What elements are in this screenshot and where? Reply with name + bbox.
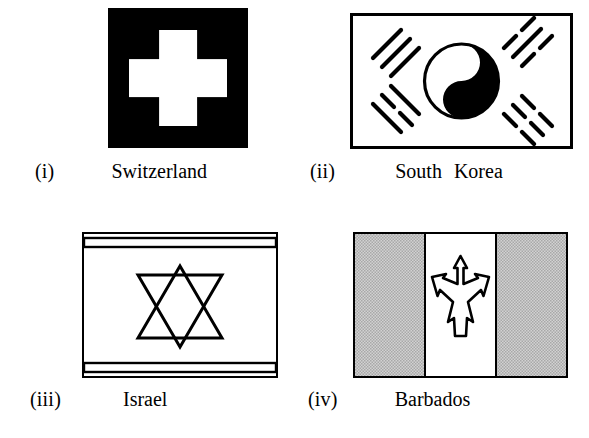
barbados-right-band [496,234,566,376]
figure-numeral-iv: (iv) [308,388,338,411]
south-korea-flag-artwork [353,16,570,146]
star-of-david [138,266,222,347]
taegeuk-symbol [425,44,499,118]
trigram-ri-bottom-left [373,86,419,132]
israel-top-stripe [84,238,276,247]
barbados-flag [353,232,568,378]
caption-south-korea: (ii) South Korea [310,160,503,183]
swiss-cross-horizontal-arm [129,59,227,97]
flag-label-south-korea: South Korea [395,160,503,183]
figure-numeral-iii: (iii) [30,388,61,411]
israel-bottom-stripe [84,363,276,372]
trigram-geon-top-left [373,30,419,76]
flag-label-switzerland: Switzerland [111,160,207,183]
figure-numeral-ii: (ii) [310,160,335,183]
barbados-flag-artwork [355,234,566,376]
figure-numeral-i: (i) [35,160,54,183]
flag-label-israel: Israel [123,388,167,411]
trigram-gam-top-right [504,18,552,66]
israel-flag [82,232,278,378]
caption-israel: (iii) Israel [30,388,167,411]
flag-label-barbados: Barbados [395,388,471,411]
trigram-gon-bottom-right [504,96,552,144]
israel-flag-artwork [84,234,276,376]
caption-barbados: (iv) Barbados [308,388,470,411]
caption-switzerland: (i) Switzerland [35,160,207,183]
barbados-left-band [355,234,425,376]
switzerland-flag [108,8,248,148]
flags-figure-page: (i) Switzerland [0,0,589,438]
south-korea-flag [350,13,573,149]
